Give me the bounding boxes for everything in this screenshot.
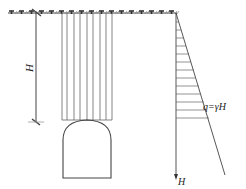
tunnel-outline	[63, 120, 111, 178]
diagram-canvas	[0, 0, 246, 189]
overburden-columns	[62, 13, 112, 120]
pressure-diagram	[174, 13, 225, 180]
load-formula-label: q=γH	[203, 101, 226, 112]
ground-surface	[8, 11, 179, 14]
depth-label-h: H	[23, 64, 35, 72]
depth-axis-label: H	[178, 176, 185, 187]
tunnel-load-diagram: H q=γH H	[0, 0, 246, 189]
